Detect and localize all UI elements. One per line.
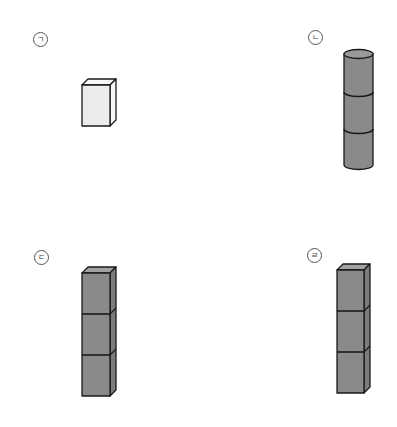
figure-canvas [0, 0, 397, 427]
tower-c-front [82, 273, 110, 396]
shape-d-tower [337, 264, 370, 393]
box-a-front [82, 85, 110, 126]
tower-d-front [337, 270, 364, 393]
box-a-side [110, 79, 116, 126]
shape-c-tower [82, 267, 116, 396]
tower-d-side [364, 264, 370, 393]
cylinder-body [344, 54, 373, 170]
tower-c-side [110, 267, 116, 396]
shape-b-cylinder [344, 50, 373, 170]
cylinder-top [344, 50, 373, 59]
shape-a-box [82, 79, 116, 126]
